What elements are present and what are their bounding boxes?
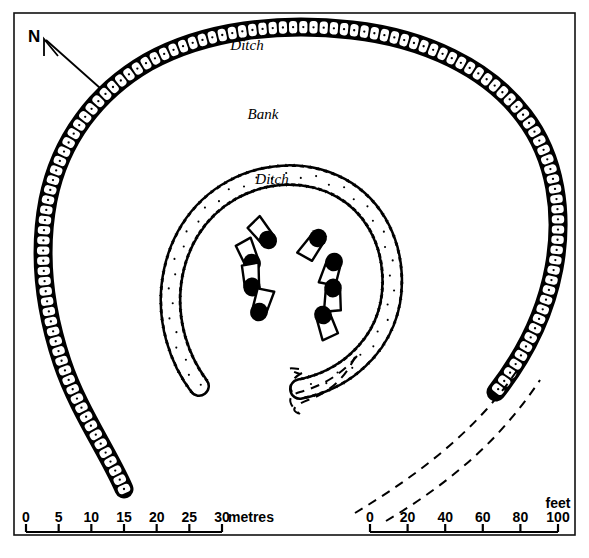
outer-ditch-dot <box>120 79 122 81</box>
outer-ditch-label: Ditch <box>229 37 263 53</box>
outer-ditch-dot <box>60 360 62 362</box>
outer-ditch-dot <box>48 310 50 312</box>
metric-scale-tick-label: 5 <box>55 509 63 525</box>
outer-ditch-dot <box>192 42 194 44</box>
outer-ditch-dot <box>549 168 551 170</box>
inner-ditch-stipple-dot <box>351 367 353 369</box>
outer-ditch-dot <box>76 397 78 399</box>
outer-ditch-dot <box>272 27 274 29</box>
outer-ditch-dot <box>241 30 243 32</box>
inner-ditch-stipple-dot <box>243 186 245 188</box>
outer-ditch-cells <box>37 21 564 495</box>
outer-ditch-dot <box>312 26 314 28</box>
outer-ditch-dot <box>43 270 45 272</box>
outer-ditch-dot <box>363 30 365 32</box>
outer-ditch-dot <box>393 36 395 38</box>
outer-ditch-dot <box>545 299 547 301</box>
outer-ditch-dot <box>528 122 530 124</box>
outer-ditch-dot <box>557 228 559 230</box>
inner-ditch-stipple-dot <box>200 384 202 386</box>
metric-scale-tick-label: 20 <box>149 509 165 525</box>
outer-ditch-dot <box>556 208 558 210</box>
outer-ditch-dot <box>323 27 325 29</box>
outer-ditch-earthwork <box>37 21 564 495</box>
outer-ditch-dot <box>556 249 558 251</box>
outer-ditch-dot <box>43 280 45 282</box>
outer-ditch-dot <box>460 62 462 64</box>
inner-ditch-stipple-dot <box>175 347 177 349</box>
outer-ditch-dot <box>112 86 114 88</box>
imperial-scale-tick-label: 20 <box>400 509 416 525</box>
outer-ditch-dot <box>73 132 75 134</box>
imperial-scale-tick-label: 100 <box>546 509 570 525</box>
inner-ditch-stipple-dot <box>228 188 230 190</box>
outer-ditch-dot <box>520 354 522 356</box>
inner-ditch-stipple-dot <box>185 230 187 232</box>
outer-ditch-dot <box>522 114 524 116</box>
outer-ditch-dot <box>302 26 304 28</box>
outer-ditch-dot <box>90 425 92 427</box>
outer-ditch-dot <box>333 27 335 29</box>
outer-ditch-dot <box>485 78 487 80</box>
outer-ditch-dot <box>221 34 223 36</box>
outer-ditch-dot <box>85 416 87 418</box>
bank-label: Bank <box>248 106 279 122</box>
metric-scale-bar: 051015202530metres <box>22 509 274 532</box>
outer-ditch-dot <box>136 67 138 69</box>
inner-ditch-stipple-dot <box>343 186 345 188</box>
outer-ditch-dot <box>556 239 558 241</box>
inner-ditch-stipple-dot <box>315 175 317 177</box>
central-stone-circle <box>235 216 345 341</box>
outer-ditch-dot <box>546 158 548 160</box>
inner-ditch-stipple-dot <box>185 359 187 361</box>
imperial-scale-tick-label: 40 <box>437 509 453 525</box>
outer-ditch-dot <box>413 42 415 44</box>
outer-ditch-dot <box>538 139 540 141</box>
outer-ditch-dot <box>52 179 54 181</box>
outer-ditch-dot <box>49 189 51 191</box>
outer-ditch-dot <box>422 45 424 47</box>
inner-ditch-stipple-dot <box>168 317 170 319</box>
outer-ditch-dot <box>43 229 45 231</box>
outer-ditch-dot <box>45 209 47 211</box>
metric-scale-tick-label: 15 <box>116 509 132 525</box>
outer-ditch-dot <box>109 460 111 462</box>
outer-ditch-dot <box>104 93 106 95</box>
metric-scale-tick-label: 25 <box>182 509 198 525</box>
imperial-scale-tick-label: 60 <box>475 509 491 525</box>
outer-ditch-dot <box>554 259 556 261</box>
outer-ditch-dot <box>211 36 213 38</box>
stone-hole-feature <box>297 225 331 262</box>
outer-ditch-dot <box>552 269 554 271</box>
outer-ditch-dot <box>95 434 97 436</box>
inner-ditch-stipple-dot <box>377 330 379 332</box>
outer-ditch-dot <box>538 318 540 320</box>
inner-ditch-stipple-dot <box>174 273 176 275</box>
outer-ditch-dot <box>63 150 65 152</box>
outer-ditch-dot <box>55 169 57 171</box>
inner-ditch-stipple-dot <box>372 220 374 222</box>
outer-ditch-dot <box>542 308 544 310</box>
outer-ditch-dot <box>100 443 102 445</box>
inner-ditch-band-fill <box>170 175 392 389</box>
inner-ditch-stipple-dot <box>197 221 199 223</box>
inner-ditch-stipple-dot <box>366 205 368 207</box>
outer-ditch-dot <box>525 345 527 347</box>
outer-ditch-dot <box>503 380 505 382</box>
outer-ditch-dot <box>59 160 61 162</box>
outer-ditch-dot <box>154 57 156 59</box>
outer-ditch-dot <box>42 239 44 241</box>
outer-ditch-dot <box>343 28 345 30</box>
imperial-scale-unit-label: feet <box>546 495 571 511</box>
outer-ditch-dot <box>509 372 511 374</box>
inner-ditch-stipple-dot <box>328 184 330 186</box>
inner-ditch-stipple-dot <box>172 302 174 304</box>
outer-ditch-dot <box>64 369 66 371</box>
outer-ditch-dot <box>201 39 203 41</box>
dashed-inner-loop-west <box>289 368 300 374</box>
outer-ditch-dot <box>555 198 557 200</box>
inner-ditch-earthwork <box>159 164 404 400</box>
dashed-avenue-lower <box>386 380 540 521</box>
outer-ditch-dot <box>44 219 46 221</box>
outer-ditch-dot <box>515 106 517 108</box>
